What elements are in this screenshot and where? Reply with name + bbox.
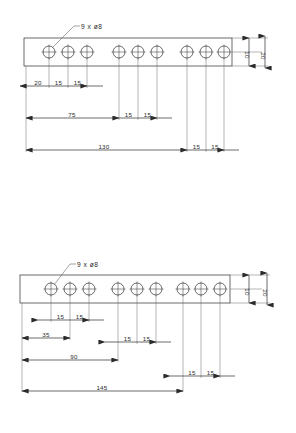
hole bbox=[194, 282, 209, 297]
bottom-hole-row bbox=[44, 282, 228, 297]
hole bbox=[150, 45, 165, 60]
hole bbox=[176, 282, 191, 297]
top-callout-leader bbox=[52, 26, 74, 48]
bottom-dim-row-3: 90 15 15 bbox=[22, 353, 235, 376]
hole bbox=[199, 45, 214, 60]
dim-label: 145 bbox=[96, 384, 107, 391]
dim-label: 15 bbox=[55, 79, 63, 86]
dim-label: 15 bbox=[57, 313, 65, 320]
hole bbox=[44, 282, 59, 297]
dim-label: 15 bbox=[207, 369, 215, 376]
hole bbox=[61, 45, 76, 60]
dim-label-10: 10 bbox=[244, 288, 251, 296]
bottom-hole-callout: 9 x ø8 bbox=[77, 261, 98, 268]
top-dim-row-3: 130 15 15 bbox=[26, 143, 239, 150]
bottom-dim-row-1: 15 15 bbox=[38, 313, 104, 320]
hole bbox=[111, 282, 126, 297]
top-right-dims: 10 20 bbox=[232, 36, 268, 68]
dim-label-20: 20 bbox=[262, 289, 269, 297]
hole bbox=[131, 45, 146, 60]
bottom-dim-row-2: 35 15 15 bbox=[22, 331, 171, 342]
hole bbox=[42, 45, 57, 60]
drawing-canvas: 20 15 15 75 15 15 130 15 15 bbox=[0, 0, 296, 433]
dim-label: 15 bbox=[188, 369, 196, 376]
dim-label: 15 bbox=[143, 335, 151, 342]
dim-label: 15 bbox=[125, 111, 133, 118]
hole bbox=[213, 282, 228, 297]
hole bbox=[217, 45, 232, 60]
bottom-view: 15 15 35 15 15 90 15 15 1 bbox=[20, 264, 270, 392]
dim-label: 15 bbox=[74, 79, 82, 86]
top-extension-lines bbox=[26, 58, 224, 152]
dim-label: 15 bbox=[193, 143, 201, 150]
dim-label: 35 bbox=[42, 331, 50, 338]
hole bbox=[149, 282, 164, 297]
top-dim-row-2: 75 15 15 bbox=[26, 111, 172, 118]
dim-label-10: 10 bbox=[244, 51, 251, 59]
dim-label: 15 bbox=[76, 313, 84, 320]
top-dim-row-1: 20 15 15 bbox=[20, 79, 103, 86]
bottom-dim-row-4: 145 bbox=[22, 384, 183, 391]
dim-label: 15 bbox=[211, 143, 219, 150]
top-hole-callout: 9 x ø8 bbox=[81, 23, 102, 30]
bottom-right-dims: 10 20 bbox=[230, 273, 270, 305]
dim-label: 15 bbox=[144, 111, 152, 118]
dim-label: 15 bbox=[124, 335, 132, 342]
top-hole-row bbox=[42, 45, 232, 60]
hole bbox=[180, 45, 195, 60]
hole bbox=[63, 282, 78, 297]
bottom-callout-leader bbox=[54, 264, 70, 285]
hole bbox=[80, 45, 95, 60]
dim-label: 75 bbox=[68, 111, 76, 118]
hole bbox=[112, 45, 127, 60]
dim-label: 20 bbox=[34, 79, 42, 86]
bottom-extension-lines bbox=[22, 295, 220, 392]
hole bbox=[82, 282, 97, 297]
dim-label-20: 20 bbox=[260, 52, 267, 60]
dim-label: 90 bbox=[70, 353, 78, 360]
hole bbox=[130, 282, 145, 297]
top-view: 20 15 15 75 15 15 130 15 15 bbox=[20, 26, 268, 152]
dim-label: 130 bbox=[98, 143, 109, 150]
